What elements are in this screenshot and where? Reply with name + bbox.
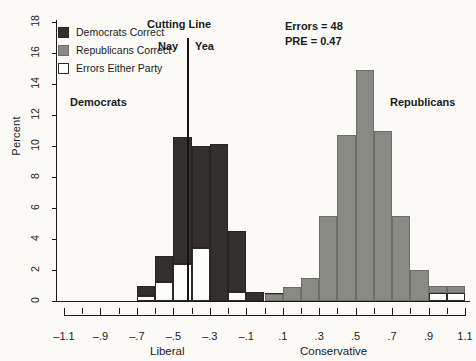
bar-segment-error bbox=[228, 292, 246, 301]
y-tick-mark bbox=[52, 146, 56, 147]
legend-label: Errors Either Party bbox=[76, 62, 162, 74]
y-tick-label: 6 bbox=[29, 196, 41, 218]
x-tick-label: –.3 bbox=[190, 330, 230, 342]
legend-item: Republicans Correct bbox=[58, 41, 171, 59]
x-tick-label: –.9 bbox=[80, 330, 120, 342]
y-tick-mark bbox=[52, 177, 56, 178]
x-tick-label: –1.1 bbox=[44, 330, 84, 342]
x-tick-mark-minor bbox=[265, 308, 266, 314]
y-tick-mark bbox=[52, 22, 56, 23]
legend-label: Republicans Correct bbox=[76, 44, 171, 56]
x-tick-mark-major bbox=[246, 308, 247, 316]
y-tick-label: 4 bbox=[29, 227, 41, 249]
x-tick-mark-minor bbox=[119, 308, 120, 314]
x-tick-label: –.7 bbox=[117, 330, 157, 342]
y-axis-line bbox=[56, 20, 57, 302]
republicans-label: Republicans bbox=[390, 96, 455, 108]
errors-stat: Errors = 48 bbox=[285, 20, 343, 32]
histogram-figure: Percent 024681012141618 –1.1–.9–.7–.5–.3… bbox=[0, 0, 476, 361]
bar-segment-republican bbox=[337, 135, 355, 301]
x-axis-tick-rail bbox=[64, 315, 466, 316]
x-tick-mark-major bbox=[392, 308, 393, 316]
legend-swatch-err bbox=[58, 63, 69, 74]
bar-segment-republican bbox=[356, 70, 374, 301]
x-tick-mark-major bbox=[319, 308, 320, 316]
y-tick-mark bbox=[52, 84, 56, 85]
y-tick-mark bbox=[52, 115, 56, 116]
x-tick-label: .1 bbox=[263, 330, 303, 342]
y-tick-mark bbox=[52, 301, 56, 302]
y-tick-label: 18 bbox=[29, 10, 41, 32]
legend-label: Democrats Correct bbox=[76, 26, 164, 38]
y-tick-label: 8 bbox=[29, 165, 41, 187]
y-tick-label: 10 bbox=[29, 134, 41, 156]
bar-segment-error bbox=[429, 293, 447, 301]
x-tick-mark-minor bbox=[374, 308, 375, 314]
x-tick-mark-minor bbox=[155, 308, 156, 314]
cutting-line bbox=[187, 38, 189, 302]
legend-swatch-dem bbox=[58, 27, 69, 38]
bar-segment-republican bbox=[392, 216, 410, 301]
x-tick-mark-minor bbox=[337, 308, 338, 314]
y-tick-mark bbox=[52, 239, 56, 240]
bar-segment-error bbox=[192, 248, 210, 301]
bar-segment-democrat bbox=[137, 286, 155, 296]
x-tick-mark-major bbox=[465, 308, 466, 316]
bar-segment-error bbox=[155, 282, 173, 301]
x-tick-mark-minor bbox=[410, 308, 411, 314]
x-tick-mark-major bbox=[356, 308, 357, 316]
x-tick-mark-major bbox=[173, 308, 174, 316]
x-tick-label: .5 bbox=[336, 330, 376, 342]
x-tick-label: 1.1 bbox=[445, 330, 476, 342]
x-tick-mark-minor bbox=[447, 308, 448, 314]
x-tick-label: –.1 bbox=[226, 330, 266, 342]
bar-segment-democrat bbox=[246, 292, 264, 301]
democrats-label: Democrats bbox=[70, 96, 127, 108]
bar-segment-republican bbox=[319, 216, 337, 301]
x-tick-mark-major bbox=[429, 308, 430, 316]
bar-segment-democrat bbox=[210, 144, 228, 301]
bar-segment-error bbox=[137, 296, 155, 301]
legend-item: Democrats Correct bbox=[58, 23, 171, 41]
conservative-caption: Conservative bbox=[300, 345, 367, 357]
bar-segment-republican bbox=[283, 287, 301, 301]
x-tick-mark-major bbox=[283, 308, 284, 316]
y-tick-label: 0 bbox=[29, 289, 41, 311]
yea-label: Yea bbox=[195, 40, 214, 52]
legend-item: Errors Either Party bbox=[58, 59, 171, 77]
bar-segment-republican bbox=[447, 286, 465, 294]
bar-segment-republican bbox=[265, 294, 283, 301]
x-axis-line bbox=[56, 301, 470, 302]
bar-segment-republican bbox=[301, 278, 319, 301]
bar-segment-democrat bbox=[192, 146, 210, 248]
x-tick-mark-minor bbox=[192, 308, 193, 314]
y-tick-label: 16 bbox=[29, 41, 41, 63]
pre-stat: PRE = 0.47 bbox=[285, 35, 342, 47]
legend: Democrats CorrectRepublicans CorrectErro… bbox=[58, 23, 171, 77]
legend-swatch-rep bbox=[58, 45, 69, 56]
x-tick-mark-minor bbox=[82, 308, 83, 314]
y-axis-title: Percent bbox=[10, 96, 22, 176]
x-tick-mark-major bbox=[137, 308, 138, 316]
y-tick-label: 14 bbox=[29, 72, 41, 94]
y-tick-label: 12 bbox=[29, 103, 41, 125]
bar-segment-democrat bbox=[228, 231, 246, 291]
bar-segment-democrat bbox=[155, 256, 173, 282]
liberal-caption: Liberal bbox=[150, 345, 185, 357]
x-tick-mark-major bbox=[210, 308, 211, 316]
bar-segment-error bbox=[447, 293, 465, 301]
x-tick-label: –.5 bbox=[153, 330, 193, 342]
y-tick-mark bbox=[52, 270, 56, 271]
x-tick-mark-minor bbox=[301, 308, 302, 314]
x-tick-mark-major bbox=[64, 308, 65, 316]
y-tick-mark bbox=[52, 53, 56, 54]
x-tick-label: .3 bbox=[299, 330, 339, 342]
bar-segment-republican bbox=[374, 131, 392, 302]
x-tick-label: .7 bbox=[372, 330, 412, 342]
y-tick-label: 2 bbox=[29, 258, 41, 280]
x-tick-label: .9 bbox=[409, 330, 449, 342]
x-tick-mark-major bbox=[100, 308, 101, 316]
bar-segment-republican bbox=[410, 270, 428, 301]
x-tick-mark-minor bbox=[228, 308, 229, 314]
bar-segment-republican bbox=[429, 286, 447, 294]
